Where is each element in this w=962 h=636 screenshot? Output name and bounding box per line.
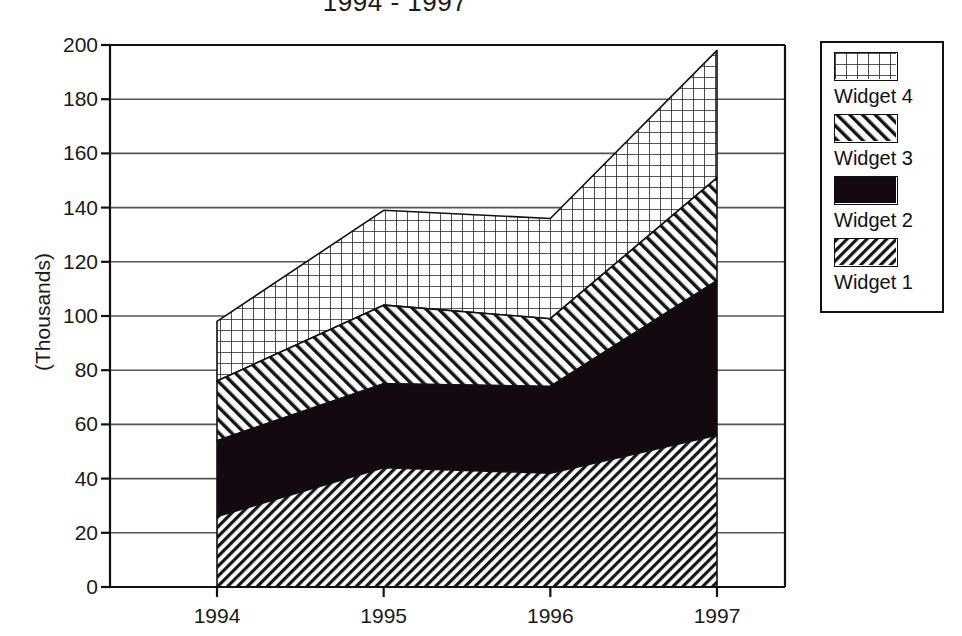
chart-legend: Widget 4Widget 3Widget 2Widget 1 <box>820 41 944 313</box>
legend-label: Widget 4 <box>834 84 942 109</box>
legend-swatch-diagonal-hatch-down-icon <box>834 238 898 267</box>
legend-entry[interactable]: Widget 1 <box>822 238 942 295</box>
legend-label: Widget 2 <box>834 208 942 233</box>
legend-swatch-diagonal-hatch-up-icon <box>834 114 898 143</box>
plot-area <box>0 0 962 636</box>
legend-entry[interactable]: Widget 3 <box>822 114 942 171</box>
legend-swatch-cross-grid-icon <box>834 52 898 81</box>
legend-entry[interactable]: Widget 4 <box>822 52 942 109</box>
area-series-layer <box>217 50 717 587</box>
legend-entry[interactable]: Widget 2 <box>822 176 942 233</box>
legend-swatch-solid-black-icon <box>834 176 898 205</box>
area-chart: 1994 - 1997 (Thousands) 0204060801001201… <box>0 0 962 636</box>
legend-label: Widget 3 <box>834 146 942 171</box>
legend-label: Widget 1 <box>834 270 942 295</box>
